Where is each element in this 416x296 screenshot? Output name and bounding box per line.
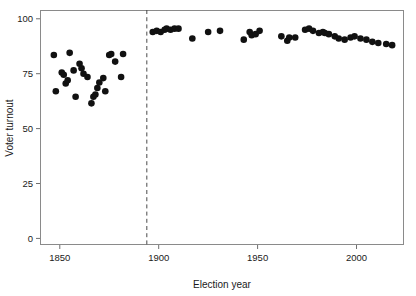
x-axis-label: Election year	[193, 279, 251, 290]
y-tick-label: 25	[22, 178, 33, 189]
x-tick-label: 1850	[49, 252, 70, 263]
y-tick-label: 75	[22, 68, 33, 79]
data-point	[326, 31, 333, 38]
data-point	[84, 74, 91, 81]
data-point	[335, 35, 342, 42]
x-axis-ticks: 1850190019502000	[49, 245, 367, 263]
data-point	[286, 34, 293, 41]
data-point	[72, 93, 79, 100]
data-point	[102, 88, 109, 95]
y-axis-label: Voter turnout	[4, 99, 15, 156]
plot-frame	[41, 11, 404, 245]
data-point	[51, 52, 58, 59]
data-point	[88, 100, 95, 107]
data-point	[357, 35, 364, 42]
y-tick-label: 0	[28, 233, 33, 244]
data-point	[205, 29, 212, 36]
data-point	[389, 42, 396, 49]
data-point	[383, 41, 390, 48]
data-point	[341, 36, 348, 43]
scatter-plot-figure: 1850190019502000 0255075100 Election yea…	[0, 0, 416, 296]
data-point	[60, 71, 67, 78]
data-point	[363, 36, 370, 43]
data-point	[310, 28, 317, 35]
data-point	[256, 28, 263, 35]
data-point	[217, 28, 224, 35]
data-point	[175, 25, 182, 32]
data-point	[351, 33, 358, 40]
data-point	[66, 50, 73, 57]
chart-canvas: 1850190019502000 0255075100 Election yea…	[0, 0, 416, 296]
y-tick-label: 100	[17, 13, 33, 24]
data-point	[118, 74, 125, 81]
data-point	[369, 39, 376, 46]
data-point	[189, 35, 196, 42]
y-tick-label: 50	[22, 123, 33, 134]
data-points	[51, 25, 396, 106]
data-point	[278, 33, 285, 40]
data-point	[292, 34, 299, 41]
x-tick-label: 1950	[247, 252, 268, 263]
data-point	[120, 51, 127, 58]
data-point	[70, 67, 77, 74]
data-point	[100, 75, 107, 82]
data-point	[375, 40, 382, 47]
data-point	[112, 58, 119, 65]
data-point	[240, 36, 247, 43]
x-tick-label: 2000	[346, 252, 367, 263]
y-axis-ticks: 0255075100	[17, 13, 40, 244]
data-point	[64, 77, 71, 84]
data-point	[92, 91, 99, 98]
data-point	[53, 88, 60, 95]
x-tick-label: 1900	[148, 252, 169, 263]
data-point	[108, 51, 115, 58]
